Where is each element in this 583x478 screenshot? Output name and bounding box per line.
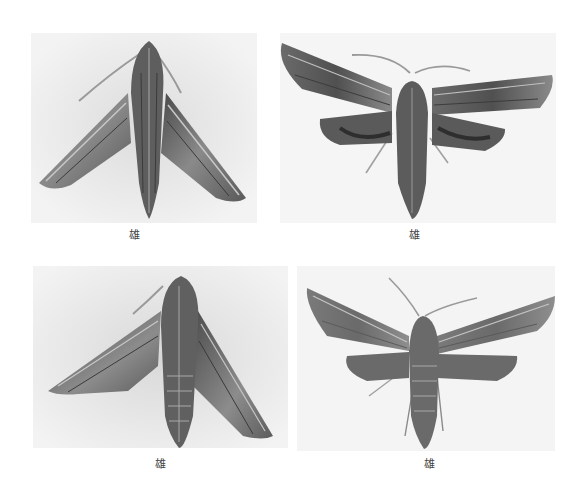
specimen-photo-top-left [31,33,257,223]
moth-resting-image [31,33,257,223]
plate-caption-bottom-left: 雄 [140,458,180,472]
moth-spread-image [297,266,555,451]
specimen-photo-bottom-left [33,266,288,448]
specimen-photo-bottom-right [297,266,555,451]
specimen-photo-top-right [280,33,556,223]
plate-caption-top-left: 雄 [114,229,154,243]
plate-caption-top-right: 雄 [394,229,434,243]
plate-caption-bottom-right: 雄 [409,458,449,472]
moth-spread-image [280,33,556,223]
moth-resting-image [33,266,288,448]
